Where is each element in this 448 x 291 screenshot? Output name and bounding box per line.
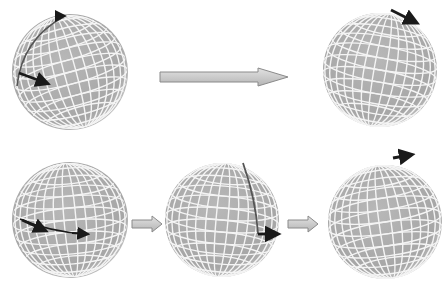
sphere-bottom-step2 (160, 158, 284, 282)
sphere-bottom-step1 (7, 157, 133, 283)
sphere-bottom-end (321, 158, 448, 287)
tangent-vector-bottom-step1-end (72, 233, 86, 234)
sphere-top-start (0, 1, 141, 143)
sphere-top-end (314, 4, 446, 136)
parallel-transport-diagram (0, 0, 448, 291)
transition-arrow-small-1 (132, 216, 162, 232)
tangent-vector-bottom-end (393, 155, 410, 158)
transition-arrow-large (160, 68, 288, 86)
transition-arrow-small-2 (288, 216, 318, 232)
